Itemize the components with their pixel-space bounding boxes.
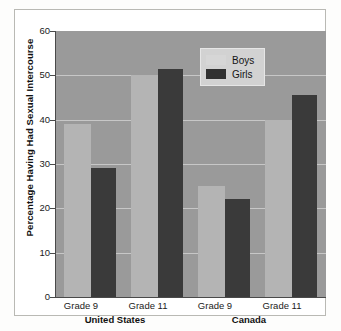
y-tick-40: 40 — [24, 114, 50, 125]
bar-girls-ca-grade9 — [225, 199, 250, 297]
gridline-50 — [56, 75, 326, 76]
x-axis-line — [55, 297, 326, 298]
legend-item-boys: Boys — [206, 53, 254, 67]
group-label-united-states: United States — [55, 314, 175, 325]
bar-boys-us-grade9 — [64, 124, 91, 297]
legend-item-girls: Girls — [206, 67, 254, 81]
x-label-ca-grade9: Grade 9 — [185, 300, 245, 311]
x-label-ca-grade11: Grade 11 — [252, 300, 312, 311]
bar-girls-us-grade11 — [158, 69, 183, 297]
bar-boys-us-grade11 — [131, 75, 158, 297]
y-tick-0: 0 — [24, 291, 50, 302]
plot-area: Boys Girls — [56, 31, 326, 297]
y-tick-60: 60 — [24, 25, 50, 36]
bar-boys-ca-grade9 — [198, 186, 225, 297]
y-tick-10: 10 — [24, 247, 50, 258]
chart-legend: Boys Girls — [200, 48, 265, 86]
y-tick-20: 20 — [24, 202, 50, 213]
x-label-us-grade11: Grade 11 — [118, 300, 178, 311]
bar-boys-ca-grade11 — [265, 120, 292, 297]
chart-page: Percentage Having Had Sexual Intercourse… — [0, 0, 341, 331]
legend-swatch-boys-icon — [206, 55, 226, 65]
y-axis-tick-labels: 60 50 40 30 20 10 0 — [18, 31, 50, 298]
legend-label-girls: Girls — [232, 69, 253, 80]
group-label-canada: Canada — [189, 314, 309, 325]
bar-girls-ca-grade11 — [292, 95, 317, 297]
y-tick-50: 50 — [24, 69, 50, 80]
bar-girls-us-grade9 — [91, 168, 116, 297]
y-tick-30: 30 — [24, 158, 50, 169]
legend-label-boys: Boys — [232, 55, 254, 66]
x-label-us-grade9: Grade 9 — [51, 300, 111, 311]
legend-swatch-girls-icon — [206, 69, 226, 79]
